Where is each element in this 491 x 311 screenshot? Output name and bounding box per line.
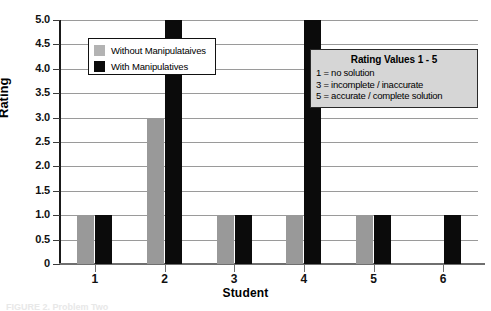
y-axis-tick-label: 1.0 xyxy=(35,208,50,220)
y-axis-tick-label: 4.0 xyxy=(35,62,50,74)
y-axis-tick xyxy=(53,191,60,192)
bar-without-manipulataives-5 xyxy=(356,215,373,264)
y-axis-tick-label: 0 xyxy=(44,257,50,269)
x-axis-title: Student xyxy=(0,286,491,300)
bar-with-manipulatives-6 xyxy=(444,215,461,264)
legend-item-with: With Manipulatives xyxy=(94,59,210,73)
y-axis-tick-label: 0.5 xyxy=(35,233,50,245)
x-axis-tick-label: 1 xyxy=(75,272,115,286)
y-axis-tick xyxy=(53,69,60,70)
legend-swatch-black xyxy=(94,61,105,72)
y-axis-tick xyxy=(53,240,60,241)
figure-caption: FIGURE 2. Problem Two xyxy=(6,302,306,311)
x-axis-tick-label: 4 xyxy=(284,272,324,286)
rating-key-title: Rating Values 1 - 5 xyxy=(316,54,472,65)
x-axis-tick xyxy=(95,265,96,272)
x-axis-tick-label: 2 xyxy=(145,272,185,286)
x-axis-tick-label: 3 xyxy=(214,272,254,286)
bar-without-manipulataives-4 xyxy=(286,215,303,264)
y-axis-tick xyxy=(53,264,60,265)
chart-figure: 00.51.01.52.02.53.03.54.04.55.0 123456 S… xyxy=(0,0,491,311)
bar-without-manipulataives-1 xyxy=(77,215,94,264)
y-axis-tick-label: 3.5 xyxy=(35,86,50,98)
y-axis-tick-label: 2.0 xyxy=(35,159,50,171)
bar-without-manipulataives-2 xyxy=(147,118,164,264)
chart-legend: Without Manipulataives With Manipulative… xyxy=(88,38,216,75)
y-axis-tick-label: 2.5 xyxy=(35,135,50,147)
x-axis-tick xyxy=(443,265,444,272)
legend-label-without: Without Manipulataives xyxy=(111,45,206,56)
rating-key-line-2: 3 = incomplete / inaccurate xyxy=(316,79,472,91)
bar-without-manipulataives-3 xyxy=(217,215,234,264)
y-axis-tick xyxy=(53,20,60,21)
legend-label-with: With Manipulatives xyxy=(111,61,188,72)
x-axis-tick xyxy=(165,265,166,272)
y-axis-tick xyxy=(53,142,60,143)
y-axis-tick xyxy=(53,215,60,216)
x-axis-tick xyxy=(304,265,305,272)
rating-key-line-1: 1 = no solution xyxy=(316,67,472,79)
y-axis-title: Rating xyxy=(0,78,11,118)
y-axis-tick xyxy=(53,44,60,45)
y-axis-tick-label: 4.5 xyxy=(35,37,50,49)
y-axis-tick xyxy=(53,93,60,94)
y-axis-tick-label: 5.0 xyxy=(35,13,50,25)
bar-with-manipulatives-1 xyxy=(95,215,112,264)
rating-key-box: Rating Values 1 - 5 1 = no solution 3 = … xyxy=(310,49,478,108)
x-axis-tick xyxy=(234,265,235,272)
rating-key-line-3: 5 = accurate / complete solution xyxy=(316,90,472,102)
legend-swatch-gray xyxy=(94,45,105,56)
y-axis-tick xyxy=(53,118,60,119)
bar-with-manipulatives-3 xyxy=(235,215,252,264)
x-axis-tick-label: 6 xyxy=(423,272,463,286)
y-axis-tick-label: 3.0 xyxy=(35,111,50,123)
bar-with-manipulatives-5 xyxy=(374,215,391,264)
x-axis-tick-label: 5 xyxy=(354,272,394,286)
x-axis-tick xyxy=(374,265,375,272)
y-axis-tick xyxy=(53,166,60,167)
y-axis-tick-label: 1.5 xyxy=(35,184,50,196)
legend-item-without: Without Manipulataives xyxy=(94,43,210,57)
